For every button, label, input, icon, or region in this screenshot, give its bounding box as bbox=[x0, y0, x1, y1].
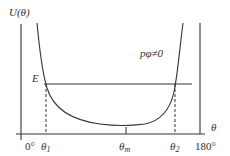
curve-annotation: pφ≠0 bbox=[139, 47, 164, 59]
potential-energy-diagram: U(θ) E pφ≠0 θ 0° θ1 θm θ2 180° bbox=[0, 0, 230, 156]
tick-label-180deg: 180° bbox=[195, 140, 216, 152]
y-axis-label: U(θ) bbox=[9, 6, 30, 19]
energy-label: E bbox=[31, 72, 39, 84]
tick-label-theta-m: θm bbox=[119, 140, 130, 154]
x-axis-label: θ bbox=[211, 121, 217, 133]
tick-label-theta1: θ1 bbox=[41, 140, 50, 154]
potential-curve bbox=[37, 23, 183, 126]
tick-label-theta2: θ2 bbox=[170, 140, 179, 154]
tick-label-0deg: 0° bbox=[25, 140, 35, 152]
